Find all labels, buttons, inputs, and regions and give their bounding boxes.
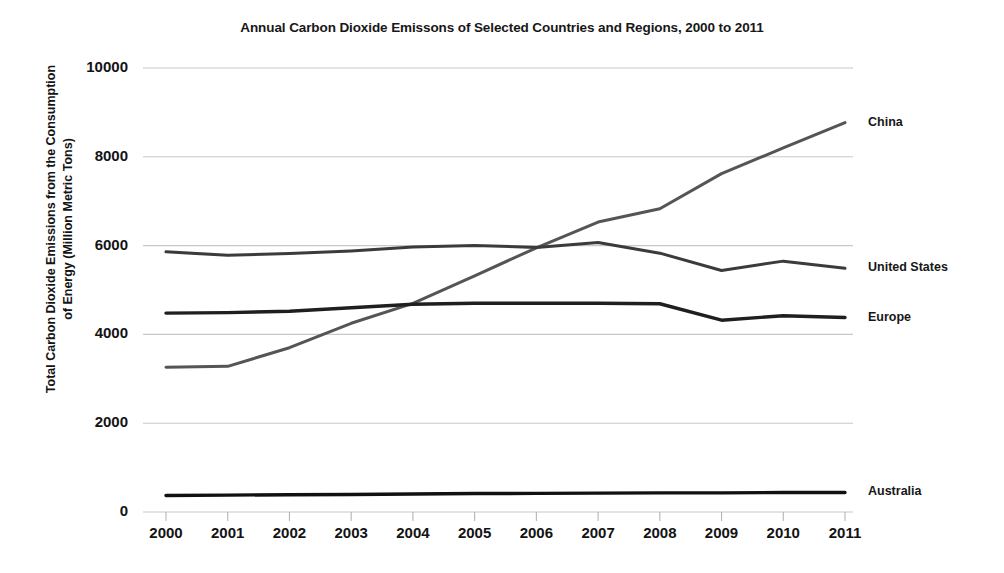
x-tick-label: 2010 xyxy=(748,524,818,541)
plot-area xyxy=(0,0,1004,573)
series-label-united-states: United States xyxy=(868,260,948,274)
gridlines-group xyxy=(143,68,853,512)
x-tick-label: 2009 xyxy=(687,524,757,541)
series-label-china: China xyxy=(868,115,903,129)
x-tick-label: 2000 xyxy=(131,524,201,541)
x-tick-marks-group xyxy=(166,512,845,521)
x-tick-label: 2005 xyxy=(440,524,510,541)
x-tick-label: 2006 xyxy=(501,524,571,541)
series-lines-group xyxy=(166,123,845,496)
y-tick-label: 4000 xyxy=(38,324,128,341)
x-tick-label: 2002 xyxy=(254,524,324,541)
x-tick-label: 2004 xyxy=(378,524,448,541)
y-tick-label: 8000 xyxy=(38,147,128,164)
y-tick-label: 2000 xyxy=(38,413,128,430)
x-tick-label: 2007 xyxy=(563,524,633,541)
y-tick-label: 6000 xyxy=(38,236,128,253)
series-line-australia xyxy=(166,492,845,495)
series-label-europe: Europe xyxy=(868,310,911,324)
chart-page: Annual Carbon Dioxide Emissons of Select… xyxy=(0,0,1004,573)
x-tick-label: 2008 xyxy=(625,524,695,541)
series-line-united-states xyxy=(166,242,845,270)
y-tick-label: 0 xyxy=(38,502,128,519)
y-tick-label: 10000 xyxy=(38,58,128,75)
series-line-europe xyxy=(166,303,845,320)
x-tick-label: 2011 xyxy=(810,524,880,541)
x-tick-label: 2001 xyxy=(193,524,263,541)
series-line-china xyxy=(166,123,845,368)
x-tick-label: 2003 xyxy=(316,524,386,541)
series-label-australia: Australia xyxy=(868,484,922,498)
